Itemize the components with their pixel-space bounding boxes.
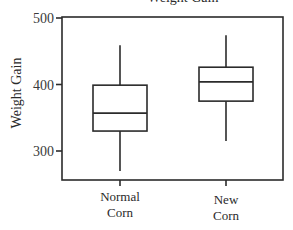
plot-frame-rect — [62, 17, 283, 180]
x-tick-label-line2: Corn — [213, 208, 240, 223]
x-tick-label-line2: Corn — [107, 205, 134, 220]
x-tick-label-line1: New — [214, 192, 239, 207]
y-axis-label: Weight Gain — [9, 58, 24, 129]
y-tick-label: 500 — [33, 11, 54, 26]
box-1 — [93, 45, 147, 171]
y-tick-label: 300 — [33, 144, 54, 159]
chart-title: Weight Gain — [148, 0, 219, 5]
x-tick-label-line1: Normal — [100, 189, 140, 204]
box-plot-chart: Weight Gain 300400500 Weight Gain Normal… — [0, 0, 293, 230]
boxes — [93, 35, 253, 171]
iqr-box — [93, 85, 147, 131]
y-axis: 300400500 — [33, 11, 62, 159]
iqr-box — [199, 67, 253, 101]
y-tick-label: 400 — [33, 78, 54, 93]
box-2 — [199, 35, 253, 141]
plot-frame — [62, 17, 283, 180]
x-axis: NormalCornNewCorn — [100, 180, 239, 223]
